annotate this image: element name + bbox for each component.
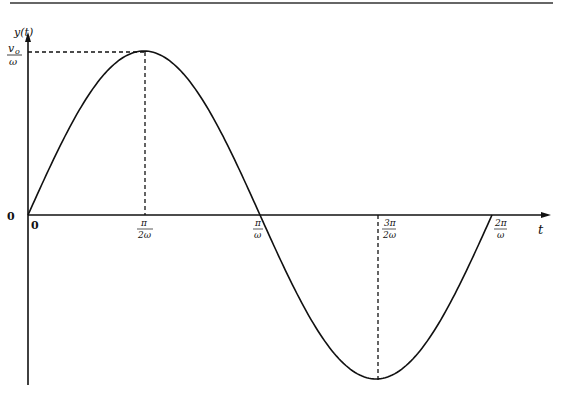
svg-text:3π: 3π — [384, 218, 397, 228]
sine-wave-chart: y(t) t 0 0 v o ω π 2ω π ω 3π 2ω 2π ω — [0, 0, 563, 397]
tick-label-3pi-2omega: 3π 2ω — [382, 218, 397, 240]
svg-text:2ω: 2ω — [137, 230, 152, 240]
svg-text:π: π — [140, 218, 148, 228]
svg-text:ω: ω — [497, 230, 505, 240]
y-axis-label: y(t) — [13, 26, 33, 39]
peak-value-label: v o ω — [7, 42, 22, 67]
svg-text:ω: ω — [254, 230, 262, 240]
x-origin-label: 0 — [31, 219, 39, 232]
tick-label-pi-omega: π ω — [253, 218, 263, 240]
y-origin-label: 0 — [7, 210, 15, 223]
svg-text:2ω: 2ω — [382, 230, 397, 240]
x-axis-arrow-icon — [541, 212, 551, 218]
svg-text:2π: 2π — [494, 218, 508, 228]
svg-text:ω: ω — [9, 56, 17, 67]
tick-label-pi-2omega: π 2ω — [137, 218, 153, 240]
tick-label-2pi-omega: 2π ω — [494, 218, 508, 240]
svg-text:π: π — [254, 218, 262, 228]
svg-text:v: v — [8, 42, 15, 55]
x-axis-label: t — [538, 222, 544, 237]
